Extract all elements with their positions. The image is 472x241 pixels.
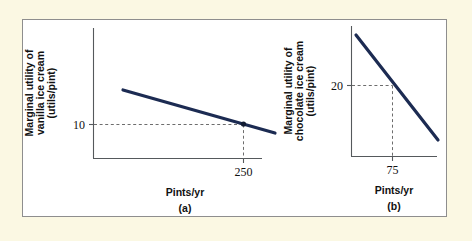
figure-root: 10 250 Marginal utility of vanilla ice c… bbox=[0, 0, 472, 241]
figure-frame bbox=[22, 19, 447, 217]
